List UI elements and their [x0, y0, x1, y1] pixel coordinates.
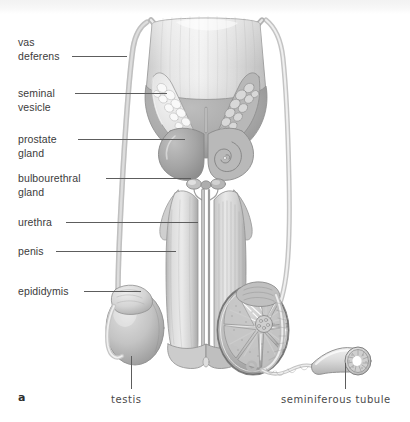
leader-line-seminiferous-tubule: [345, 363, 346, 389]
label-penis: penis: [18, 245, 44, 259]
leader-line-penis: [56, 251, 176, 252]
leader-line-vas-deferens: [72, 56, 127, 57]
figure-letter: a: [18, 391, 25, 404]
leader-line-bulbourethral-gland: [106, 178, 191, 179]
label-seminal-vesicle: seminal vesicle: [18, 87, 55, 114]
label-vas-deferens: vas deferens: [18, 36, 60, 63]
label-prostate-gland: prostate gland: [18, 133, 57, 160]
label-epididymis: epididymis: [18, 285, 69, 299]
leader-line-seminal-vesicle: [75, 93, 167, 94]
leader-line-urethra: [66, 222, 198, 223]
label-urethra: urethra: [18, 216, 52, 230]
prostate-gland: [158, 128, 204, 180]
leader-line-testis: [131, 356, 132, 389]
label-seminiferous-tubule: seminiferous tubule: [281, 394, 391, 406]
label-testis: testis: [111, 394, 142, 406]
seminiferous-tubule-magnified: [311, 347, 371, 375]
prostate-cutaway: [208, 128, 254, 180]
anatomy-figure-male-reproductive-system: vas deferens seminal vesicle prostate gl…: [0, 0, 410, 422]
label-bulbourethral-gland: bulbourethral gland: [18, 172, 81, 199]
leader-line-prostate-gland: [78, 139, 185, 140]
leader-line-epididymis: [84, 291, 141, 292]
male-reproductive-system-illustration: [0, 0, 410, 422]
